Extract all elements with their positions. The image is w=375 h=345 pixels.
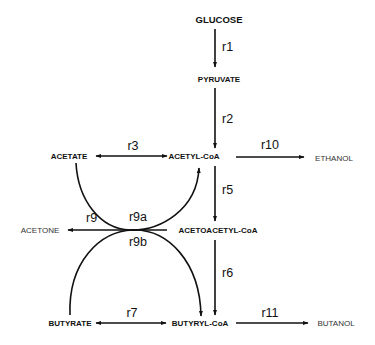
label-r9a: r9a (129, 210, 147, 224)
label-r10: r10 (261, 138, 279, 152)
label-r9b: r9b (129, 235, 147, 249)
node-acetoacetyl-coa: ACETOACETYL-CoA (179, 226, 258, 235)
node-butanol: BUTANOL (317, 319, 355, 328)
node-ethanol: ETHANOL (315, 154, 353, 163)
node-acetyl-coa: ACETYL-CoA (168, 152, 219, 161)
label-r2: r2 (222, 112, 233, 126)
label-r3: r3 (127, 139, 138, 153)
pathway-diagram: GLUCOSE PYRUVATE ACETATE ACETYL-CoA ETHA… (0, 0, 375, 345)
label-r1: r1 (222, 40, 233, 54)
node-acetate: ACETATE (51, 152, 88, 161)
label-r9: r9 (86, 211, 97, 225)
label-r11: r11 (261, 306, 278, 320)
label-r5: r5 (222, 183, 233, 197)
node-glucose: GLUCOSE (196, 14, 243, 25)
label-r6: r6 (222, 266, 233, 280)
node-butyryl-coa: BUTYRYL-CoA (172, 319, 229, 328)
node-butyrate: BUTYRATE (49, 319, 93, 328)
node-pyruvate: PYRUVATE (198, 75, 241, 84)
node-acetone: ACETONE (21, 226, 60, 235)
label-r7: r7 (126, 306, 137, 320)
